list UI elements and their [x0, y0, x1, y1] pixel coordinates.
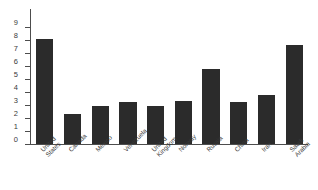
y-tick-label: 1: [0, 123, 18, 131]
bar-chart: 0123456789 UnitedStatesCanadaMexicoVenez…: [0, 0, 318, 190]
y-tick-mark: [25, 27, 31, 28]
bar-united-states[interactable]: [36, 39, 53, 144]
y-tick-mark: [25, 105, 31, 106]
bars-layer: [31, 8, 308, 144]
y-tick-mark: [25, 131, 31, 132]
y-tick-label: 8: [0, 32, 18, 40]
y-tick-mark: [25, 40, 31, 41]
y-tick-label: 4: [0, 84, 18, 92]
y-tick-label: 7: [0, 45, 18, 53]
y-tick-label: 6: [0, 58, 18, 66]
bar-saudi-arabia[interactable]: [286, 45, 303, 144]
y-tick-mark: [25, 92, 31, 93]
y-tick-mark: [25, 79, 31, 80]
y-tick-mark: [25, 118, 31, 119]
y-tick-label: 5: [0, 71, 18, 79]
y-tick-label: 3: [0, 97, 18, 105]
y-tick-mark: [25, 66, 31, 67]
y-tick-label: 9: [0, 19, 18, 27]
bar-iran[interactable]: [258, 95, 275, 144]
y-tick-mark: [25, 53, 31, 54]
y-tick-mark: [25, 144, 31, 145]
y-tick-label: 0: [0, 136, 18, 144]
bar-russia[interactable]: [202, 69, 219, 144]
y-tick-label: 2: [0, 110, 18, 118]
